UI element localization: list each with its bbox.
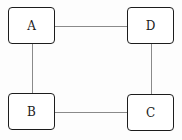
edge-a-b — [32, 44, 33, 93]
node-d-label: D — [146, 19, 156, 33]
node-c: C — [127, 94, 174, 131]
node-b-label: B — [27, 105, 36, 119]
node-a-label: A — [27, 19, 36, 33]
node-c-label: C — [146, 106, 155, 120]
edge-d-c — [151, 44, 152, 94]
edge-a-d — [55, 26, 127, 27]
node-d: D — [127, 7, 174, 44]
node-b: B — [8, 93, 55, 130]
graph-diagram: A D B C — [0, 0, 182, 140]
node-a: A — [8, 7, 55, 44]
edge-b-c — [55, 112, 127, 113]
